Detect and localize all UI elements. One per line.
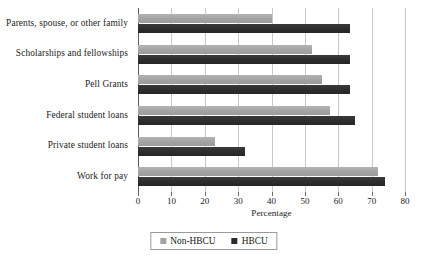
tick-label-10: 10: [167, 196, 176, 206]
category-label-pell-grants: Pell Grants: [0, 69, 133, 100]
bar-rows: [138, 8, 405, 192]
bar-hbcu: [138, 147, 245, 156]
bar-row: [138, 161, 405, 192]
axes: [138, 8, 405, 192]
legend-swatch-hbcu: [232, 238, 238, 244]
tick-label-30: 30: [234, 196, 243, 206]
tick-label-80: 80: [401, 196, 410, 206]
bar-non-hbcu: [138, 45, 312, 54]
bar-row: [138, 8, 405, 39]
category-label-work-for-pay: Work for pay: [0, 161, 133, 192]
category-label-parents: Parents, spouse, or other family: [0, 8, 133, 39]
tick-label-40: 40: [267, 196, 276, 206]
bar-chart-figure: Parents, spouse, or other family Scholar…: [0, 0, 428, 261]
tick-label-70: 70: [367, 196, 376, 206]
bar-non-hbcu: [138, 137, 215, 146]
legend-swatch-non-hbcu: [160, 238, 166, 244]
legend-item-hbcu: HBCU: [232, 236, 268, 246]
x-axis-title: Percentage: [138, 208, 405, 218]
category-label-private-student-loans: Private student loans: [0, 131, 133, 162]
bar-non-hbcu: [138, 106, 330, 115]
tick-label-0: 0: [136, 196, 141, 206]
bar-hbcu: [138, 24, 350, 33]
category-label-federal-student-loans: Federal student loans: [0, 100, 133, 131]
chart-legend: Non-HBCU HBCU: [150, 232, 277, 250]
tick-label-20: 20: [200, 196, 209, 206]
bar-row: [138, 39, 405, 70]
tick-label-60: 60: [334, 196, 343, 206]
bar-non-hbcu: [138, 167, 378, 176]
bar-hbcu: [138, 177, 385, 186]
bar-row: [138, 69, 405, 100]
bar-non-hbcu: [138, 14, 272, 23]
bar-row: [138, 100, 405, 131]
plot-area: Parents, spouse, or other family Scholar…: [0, 0, 428, 200]
bar-hbcu: [138, 55, 350, 64]
legend-label-non-hbcu: Non-HBCU: [170, 236, 215, 246]
tick-label-50: 50: [300, 196, 309, 206]
bar-non-hbcu: [138, 75, 322, 84]
bar-hbcu: [138, 116, 355, 125]
legend-label-hbcu: HBCU: [242, 236, 268, 246]
bar-hbcu: [138, 85, 350, 94]
category-axis-labels: Parents, spouse, or other family Scholar…: [0, 8, 133, 192]
category-label-scholarships: Scholarships and fellowships: [0, 39, 133, 70]
gridline-80: [405, 8, 406, 192]
bar-row: [138, 131, 405, 162]
legend-item-non-hbcu: Non-HBCU: [160, 236, 215, 246]
